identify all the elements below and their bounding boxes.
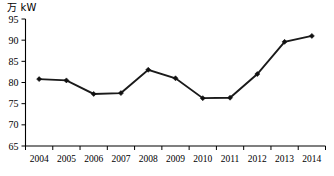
data-point-marker bbox=[309, 33, 314, 38]
line-chart: 万 kW 65707580859095 20042005200620072008… bbox=[0, 0, 334, 176]
y-axis-tick-marks bbox=[22, 19, 26, 146]
x-axis-tick-label: 2010 bbox=[193, 154, 212, 164]
x-axis-tick-label: 2012 bbox=[248, 154, 267, 164]
y-axis-tick-label: 85 bbox=[9, 56, 19, 67]
data-point-marker bbox=[37, 77, 42, 82]
y-axis-tick-label: 75 bbox=[9, 98, 19, 109]
y-axis-tick-labels: 65707580859095 bbox=[9, 14, 19, 152]
x-axis-tick-label: 2004 bbox=[30, 154, 49, 164]
x-axis-tick-label: 2007 bbox=[111, 154, 130, 164]
y-axis-tick-label: 90 bbox=[9, 35, 19, 46]
y-axis-tick-label: 65 bbox=[9, 141, 19, 152]
y-axis-tick-label: 80 bbox=[9, 77, 19, 88]
y-axis-tick-label: 95 bbox=[9, 14, 19, 25]
x-axis-tick-label: 2013 bbox=[275, 154, 294, 164]
x-axis-tick-label: 2011 bbox=[221, 154, 240, 164]
series-line bbox=[39, 36, 312, 98]
x-axis-tick-label: 2005 bbox=[57, 154, 76, 164]
x-axis-tick-label: 2006 bbox=[84, 154, 103, 164]
x-axis-tick-label: 2008 bbox=[139, 154, 158, 164]
x-axis-tick-labels: 2004200520062007200820092010201120122013… bbox=[30, 154, 322, 164]
chart-plot-area: 65707580859095 2004200520062007200820092… bbox=[0, 0, 334, 176]
x-axis-tick-label: 2009 bbox=[166, 154, 185, 164]
x-axis-tick-marks bbox=[26, 146, 326, 150]
series-markers bbox=[37, 33, 315, 100]
y-axis-tick-label: 70 bbox=[9, 119, 19, 130]
x-axis-tick-label: 2014 bbox=[302, 154, 321, 164]
